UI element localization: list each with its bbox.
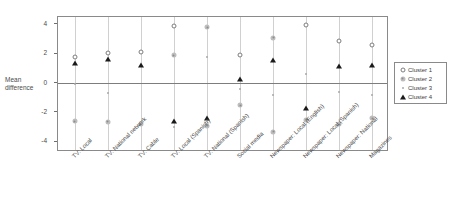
marker-cluster-2: [105, 119, 110, 124]
marker-cluster-1: [400, 67, 405, 72]
marker-cluster-4: [303, 106, 309, 111]
legend-item[interactable]: Cluster 2: [398, 74, 444, 83]
data-point: [238, 103, 243, 108]
data-point: [171, 118, 177, 123]
data-point: [272, 94, 274, 96]
marker-cluster-4: [237, 76, 243, 81]
data-point: [369, 63, 375, 68]
data-point: [171, 23, 176, 28]
legend-marker-icon: [398, 92, 407, 101]
marker-cluster-1: [370, 42, 375, 47]
marker-cluster-4: [270, 57, 276, 62]
data-point: [105, 51, 110, 56]
data-point: [206, 56, 208, 58]
marker-cluster-2: [271, 35, 276, 40]
marker-cluster-2: [400, 76, 405, 81]
marker-cluster-4: [400, 94, 406, 99]
data-point: [371, 94, 373, 96]
legend-marker-icon: [398, 65, 407, 74]
data-point: [270, 57, 276, 62]
marker-cluster-1: [105, 51, 110, 56]
marker-cluster-2: [72, 119, 77, 124]
chart-root: Mean difference 420-2-4 TV: LocalTV: Nat…: [0, 0, 451, 215]
marker-cluster-1: [138, 49, 143, 54]
y-tick-label: 4: [33, 20, 47, 27]
data-point: [173, 126, 175, 128]
data-point: [237, 76, 243, 81]
data-point: [271, 35, 276, 40]
marker-cluster-1: [304, 23, 309, 28]
marker-cluster-1: [72, 54, 77, 59]
data-point: [336, 64, 342, 69]
marker-cluster-1: [337, 38, 342, 43]
data-point: [238, 53, 243, 58]
marker-cluster-3: [371, 94, 373, 96]
marker-cluster-3: [402, 87, 404, 89]
legend-marker-icon: [398, 83, 407, 92]
legend-marker-icon: [398, 74, 407, 83]
marker-cluster-4: [105, 56, 111, 61]
data-point: [72, 60, 78, 65]
marker-cluster-2: [205, 25, 210, 30]
marker-cluster-3: [173, 126, 175, 128]
marker-cluster-2: [171, 53, 176, 58]
marker-cluster-4: [369, 63, 375, 68]
legend-label: Cluster 1: [408, 66, 432, 74]
data-point: [239, 88, 241, 90]
data-point: [72, 54, 77, 59]
marker-cluster-2: [238, 103, 243, 108]
marker-cluster-3: [206, 56, 208, 58]
data-point: [338, 91, 340, 93]
legend-label: Cluster 3: [408, 84, 432, 92]
legend-item[interactable]: Cluster 1: [398, 65, 444, 74]
y-tick-label: -4: [33, 137, 47, 144]
marker-cluster-2: [271, 129, 276, 134]
data-point: [370, 42, 375, 47]
marker-cluster-4: [336, 64, 342, 69]
data-point: [205, 25, 210, 30]
marker-cluster-3: [272, 94, 274, 96]
data-point: [72, 119, 77, 124]
data-point: [305, 73, 307, 75]
marker-cluster-1: [171, 23, 176, 28]
marker-cluster-1: [238, 53, 243, 58]
legend-item[interactable]: Cluster 3: [398, 83, 444, 92]
data-point: [74, 83, 76, 85]
data-point: [107, 92, 109, 94]
marker-cluster-4: [171, 118, 177, 123]
legend-item[interactable]: Cluster 4: [398, 92, 444, 101]
marker-cluster-3: [74, 83, 76, 85]
marker-cluster-3: [338, 91, 340, 93]
data-point: [138, 49, 143, 54]
plot-area: [57, 16, 388, 151]
legend-label: Cluster 2: [408, 75, 432, 83]
data-point: [171, 53, 176, 58]
y-tick-label: -2: [33, 108, 47, 115]
data-point: [105, 56, 111, 61]
data-point: [337, 38, 342, 43]
marker-cluster-3: [239, 88, 241, 90]
legend-label: Cluster 4: [408, 93, 432, 101]
zero-reference-line: [58, 83, 387, 84]
data-point: [271, 129, 276, 134]
data-point: [105, 119, 110, 124]
data-point: [303, 106, 309, 111]
data-point: [304, 23, 309, 28]
marker-cluster-3: [305, 73, 307, 75]
marker-cluster-4: [138, 63, 144, 68]
y-tick-label: 2: [33, 49, 47, 56]
data-point: [138, 63, 144, 68]
marker-cluster-4: [72, 60, 78, 65]
chart-legend: Cluster 1Cluster 2Cluster 3Cluster 4: [394, 62, 447, 104]
y-tick-label: 0: [33, 79, 47, 86]
marker-cluster-3: [107, 92, 109, 94]
